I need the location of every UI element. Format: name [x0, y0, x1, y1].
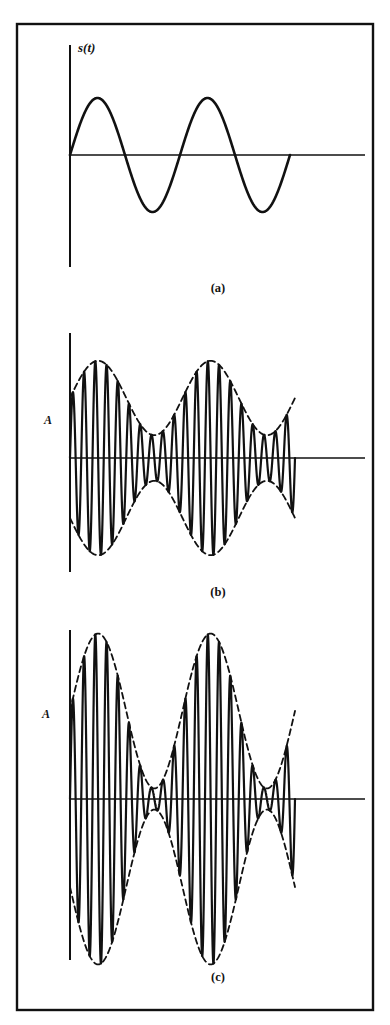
page-background [0, 0, 390, 1025]
am-modulation-figure: s(t) (a) A (b) A (c) [0, 0, 390, 1025]
panel-b-amplitude-label: A [43, 413, 52, 427]
panel-c-amplitude-label: A [41, 707, 50, 721]
figure-container: s(t) (a) A (b) A (c) [0, 0, 390, 1025]
panel-a-caption: (a) [211, 281, 226, 295]
signal-label: s(t) [77, 40, 95, 55]
panel-c-caption: (c) [211, 970, 225, 984]
panel-b-caption: (b) [210, 585, 225, 599]
